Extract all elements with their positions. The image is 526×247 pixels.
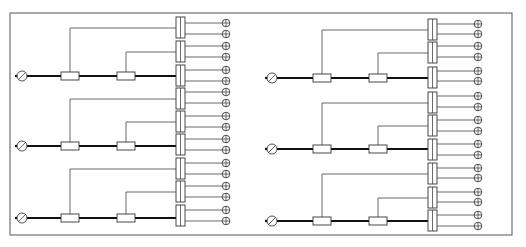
fuse-icon [313,74,331,82]
fuse-icon [61,214,79,222]
branch-wire [378,126,428,145]
branch-wire [378,53,428,74]
circuit-group [15,17,230,86]
branch-wire [70,28,176,72]
terminal-block [428,139,482,160]
circuit-group [265,92,482,160]
terminal-block [176,41,230,62]
fuse-icon [369,217,387,225]
terminal-block [428,163,482,184]
diagram-content [15,17,482,231]
fuse-icon [117,142,135,150]
fuse-icon [313,145,331,153]
branch-wire [322,30,428,74]
branch-wire [70,99,176,142]
branch-wire [378,198,428,217]
terminal-block [428,92,482,113]
fuse-icon [369,145,387,153]
terminal-block [176,181,230,202]
terminal-block [176,88,230,109]
terminal-block [176,134,230,155]
terminal-block [428,42,482,63]
circuit-group [265,19,482,88]
terminal-block [428,187,482,208]
terminal-block [428,67,482,88]
terminal-block [176,65,230,86]
branch-wire [126,192,176,214]
terminal-block [176,17,230,38]
fuse-icon [61,142,79,150]
branch-wire [322,103,428,145]
fuse-icon [61,72,79,80]
distribution-diagram [0,0,526,247]
fuse-icon [313,217,331,225]
left-panel [15,17,230,226]
terminal-block [176,158,230,179]
circuit-group [265,163,482,231]
branch-wire [126,52,176,72]
terminal-block [428,115,482,136]
terminal-block [428,19,482,40]
right-panel [265,19,482,231]
fuse-icon [117,72,135,80]
terminal-block [176,205,230,226]
branch-wire [126,122,176,142]
terminal-block [176,111,230,132]
branch-wire [70,169,176,214]
branch-wire [322,174,428,217]
circuit-group [15,158,230,226]
fuse-icon [117,214,135,222]
terminal-block [428,210,482,231]
circuit-group [15,88,230,155]
fuse-icon [369,74,387,82]
